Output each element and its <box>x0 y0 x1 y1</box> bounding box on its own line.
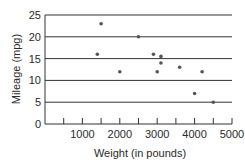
data-points <box>96 22 216 104</box>
y-tick-label: 10 <box>29 74 41 86</box>
data-point <box>96 52 100 56</box>
x-tick-label: 1000 <box>70 128 94 140</box>
data-point <box>200 70 204 74</box>
data-point <box>99 22 103 26</box>
data-point <box>152 52 156 56</box>
data-point <box>178 66 182 70</box>
data-point <box>159 61 163 65</box>
data-point <box>118 70 122 74</box>
data-point <box>137 35 141 39</box>
y-tick-label: 20 <box>29 31 41 43</box>
y-tick-label: 0 <box>35 118 41 130</box>
x-tick-label: 3000 <box>145 128 169 140</box>
x-tick-labels: 10002000300040005000 <box>70 128 244 140</box>
y-tick-label: 25 <box>29 9 41 21</box>
y-tick-label: 15 <box>29 53 41 65</box>
data-point <box>193 92 197 96</box>
x-tick-label: 2000 <box>108 128 132 140</box>
x-tick-label: 5000 <box>220 128 244 140</box>
y-tick-labels: 0510152025 <box>29 9 41 130</box>
chart-canvas: 0510152025 10002000300040005000 Weight (… <box>0 0 245 162</box>
gridlines <box>45 15 232 102</box>
x-axis-label: Weight (in pounds) <box>94 147 186 159</box>
axes <box>45 15 232 124</box>
y-tick-label: 5 <box>35 96 41 108</box>
x-tick-label: 4000 <box>182 128 206 140</box>
data-point <box>159 55 163 59</box>
scatter-chart: 0510152025 10002000300040005000 Weight (… <box>0 0 245 162</box>
x-ticks <box>64 118 232 124</box>
data-point <box>212 100 216 104</box>
y-axis-label: Mileage (mpg) <box>10 34 22 104</box>
data-point <box>155 70 159 74</box>
